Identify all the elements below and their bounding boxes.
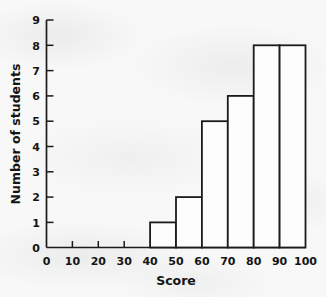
y-tick-label: 9 [32, 14, 40, 27]
y-tick-label: 7 [32, 65, 40, 78]
x-tick-label: 90 [272, 255, 288, 268]
bar-60-70 [202, 121, 228, 247]
x-tick-label: 70 [220, 255, 236, 268]
x-tick-label: 0 [43, 255, 51, 268]
bar-70-80 [228, 96, 254, 248]
x-tick-label: 80 [246, 255, 262, 268]
x-tick-labels: 0 10 20 30 40 50 60 70 80 90 100 [43, 255, 318, 268]
y-tick-label: 3 [32, 166, 40, 179]
bar-80-90 [254, 45, 280, 247]
bar-40-50 [150, 222, 176, 247]
x-tick-label: 50 [168, 255, 184, 268]
y-tick-label: 0 [32, 242, 40, 255]
y-axis-title: Number of students [8, 64, 23, 205]
y-tick-label: 2 [32, 191, 40, 204]
y-tick-label: 4 [32, 141, 40, 154]
x-tick-label: 100 [294, 255, 317, 268]
x-tick-marks [72, 241, 124, 248]
histogram-figure: 9 8 7 6 5 4 3 2 1 0 0 10 20 30 40 50 60 … [0, 0, 326, 297]
x-tick-label: 10 [65, 255, 81, 268]
y-tick-label: 5 [32, 115, 40, 128]
x-axis-title: Score [156, 273, 196, 288]
x-tick-label: 20 [91, 255, 107, 268]
chart-canvas: 9 8 7 6 5 4 3 2 1 0 0 10 20 30 40 50 60 … [0, 0, 326, 297]
y-tick-labels: 9 8 7 6 5 4 3 2 1 0 [32, 14, 40, 255]
y-tick-label: 8 [32, 40, 40, 53]
x-tick-label: 60 [194, 255, 210, 268]
bar-50-60 [176, 197, 202, 247]
y-tick-label: 6 [32, 90, 40, 103]
x-tick-label: 40 [142, 255, 158, 268]
y-tick-marks [47, 20, 54, 222]
x-tick-label: 30 [117, 255, 133, 268]
y-tick-label: 1 [32, 217, 40, 230]
bar-90-100 [280, 45, 306, 247]
